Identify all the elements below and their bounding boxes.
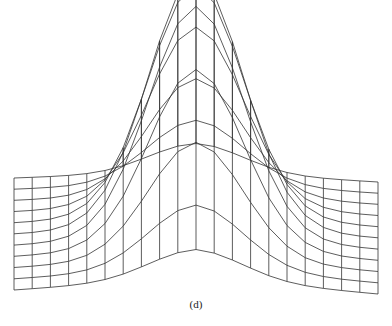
mesh-lines [14, 0, 378, 294]
wireframe-figure: (d) [0, 0, 392, 326]
gaussian-wireframe-mesh [0, 0, 392, 326]
figure-caption: (d) [0, 298, 392, 310]
